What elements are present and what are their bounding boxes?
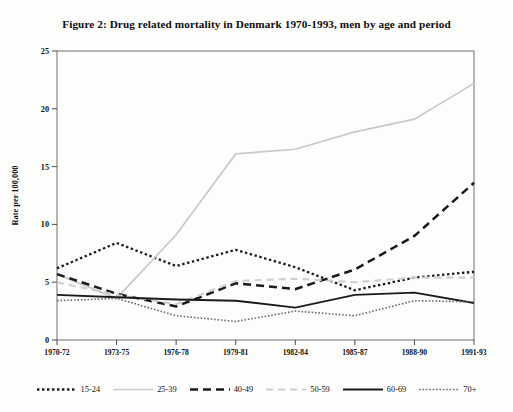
series-line-40-49 [57,183,474,307]
chart-legend: 15-2425-3940-4950-5960-6970+ [0,378,513,400]
y-axis-tick-label: 0 [45,336,49,345]
legend-item-15-24[interactable]: 15-24 [37,385,101,394]
y-axis-tick-label: 20 [41,105,49,114]
legend-item-70plus[interactable]: 70+ [419,385,476,394]
legend-swatch-25-39 [113,385,153,394]
legend-item-25-39[interactable]: 25-39 [113,385,177,394]
plot-area: 05101520251970-721973-751976-781979-8119… [0,40,513,360]
chart-axis-labels: 05101520251970-721973-751976-781979-8119… [11,47,487,360]
series-line-15-24 [57,243,474,290]
series-line-50-59 [57,278,474,305]
y-axis-tick-label: 25 [41,47,49,56]
x-axis-tick-label: 1979-81 [223,348,249,357]
legend-item-50-59[interactable]: 50-59 [266,385,330,394]
legend-swatch-40-49 [190,385,230,394]
x-axis-tick-label: 1991-93 [461,348,487,357]
legend-label: 70+ [463,385,476,394]
legend-swatch-15-24 [37,385,77,394]
legend-item-60-69[interactable]: 60-69 [343,385,407,394]
x-axis-tick-label: 1970-72 [44,348,70,357]
legend-label: 60-69 [387,385,407,394]
y-axis-tick-label: 10 [41,220,49,229]
x-axis-tick-label: 1988-90 [402,348,428,357]
legend-label: 50-59 [310,385,330,394]
x-axis-tick-label: 1985-87 [342,348,368,357]
legend-label: 15-24 [81,385,101,394]
x-axis-tick-label: 1973-75 [104,348,130,357]
y-axis-tick-label: 5 [45,278,49,287]
y-axis-tick-label: 15 [41,163,49,172]
legend-swatch-60-69 [343,385,383,394]
chart-series-group [57,83,474,321]
figure-title: Figure 2: Drug related mortality in Denm… [0,18,513,30]
y-axis-title: Rate per 100,000 [11,165,20,225]
legend-swatch-50-59 [266,385,306,394]
line-chart-svg: 05101520251970-721973-751976-781979-8119… [0,40,513,360]
series-line-25-39 [57,83,474,298]
series-line-70plus [57,298,474,321]
figure-container: Figure 2: Drug related mortality in Denm… [0,0,513,412]
x-axis-tick-label: 1976-78 [163,348,189,357]
x-axis-tick-label: 1982-84 [283,348,309,357]
legend-item-40-49[interactable]: 40-49 [190,385,254,394]
chart-axes [52,51,474,345]
legend-swatch-70plus [419,385,459,394]
legend-label: 25-39 [157,385,177,394]
legend-label: 40-49 [234,385,254,394]
